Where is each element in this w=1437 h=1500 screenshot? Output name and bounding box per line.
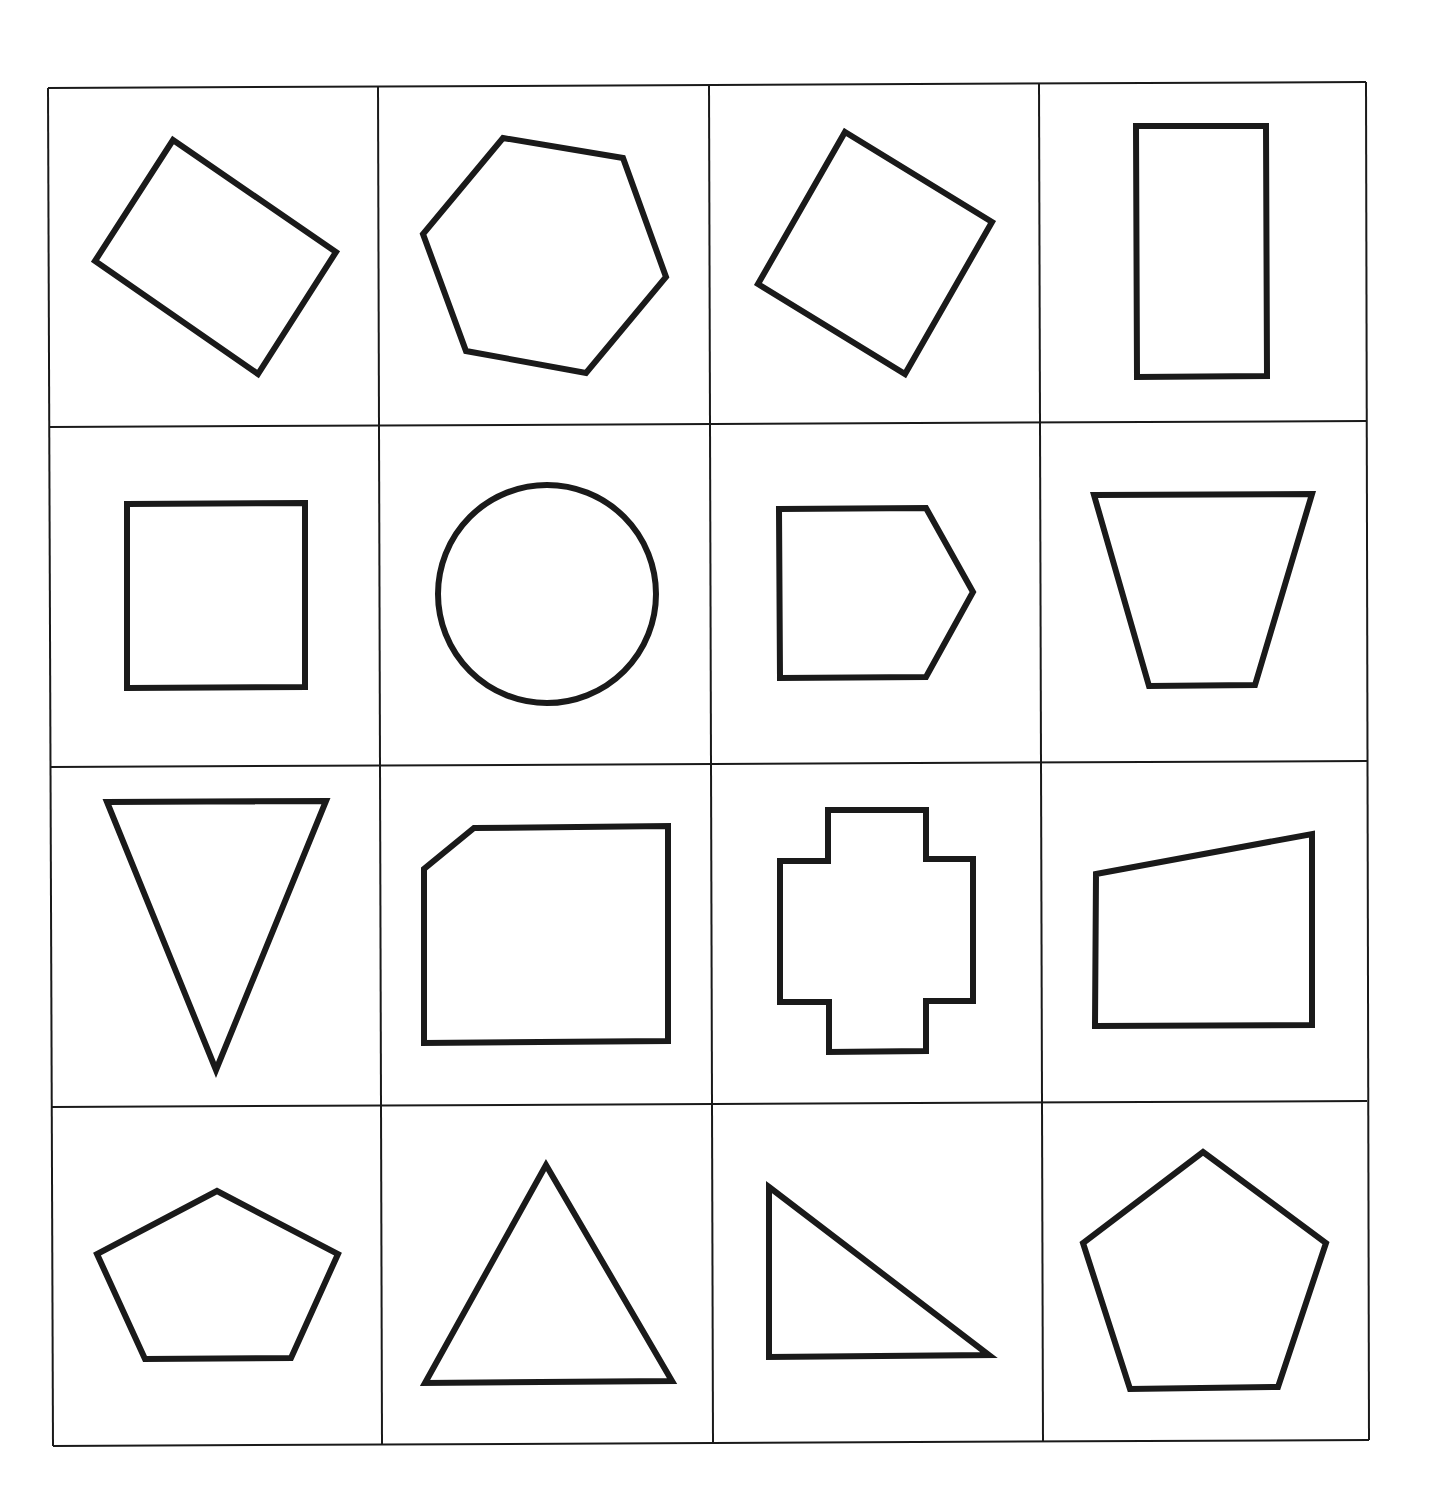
wide-pentagon-shape [97, 1191, 338, 1359]
right-triangle-shape [769, 1187, 989, 1357]
square-shape [127, 503, 305, 688]
rotated-square-shape [758, 132, 992, 374]
house-pentagon-shape [779, 508, 973, 678]
grid-line-horizontal-0 [48, 82, 1366, 88]
right-trapezoid-shape [1095, 834, 1312, 1026]
rotated-rectangle-shape [95, 140, 336, 374]
grid-line-horizontal-1 [50, 421, 1367, 427]
tall-rectangle-shape [1136, 126, 1267, 377]
inverted-trapezoid-shape [1094, 494, 1312, 686]
shapes-worksheet [0, 0, 1437, 1500]
grid-line-horizontal-4 [53, 1440, 1369, 1446]
cross-shape-shape [780, 810, 973, 1052]
regular-pentagon-shape [1083, 1152, 1326, 1389]
circle-shape [438, 485, 656, 703]
grid-line-horizontal-2 [51, 761, 1367, 767]
cut-corner-rectangle-shape [424, 826, 668, 1043]
grid-lines [48, 82, 1369, 1446]
hexagon-shape [423, 138, 666, 373]
grid-line-horizontal-3 [52, 1101, 1367, 1107]
triangle-shape [425, 1165, 672, 1383]
inverted-triangle-shape [107, 801, 326, 1070]
